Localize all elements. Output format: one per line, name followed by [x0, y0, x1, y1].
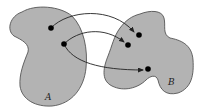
set-b-region [104, 11, 193, 93]
point-a2 [61, 41, 67, 47]
point-b2 [125, 42, 131, 48]
point-b3 [145, 66, 151, 72]
point-a1 [48, 25, 54, 31]
relation-diagram: A B [0, 0, 206, 110]
set-a-label: A [44, 92, 52, 102]
point-b1 [136, 32, 142, 38]
set-b-label: B [167, 77, 175, 87]
